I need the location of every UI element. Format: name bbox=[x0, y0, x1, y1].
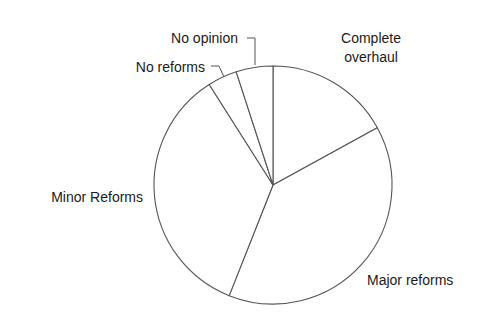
leader-line-no-reforms bbox=[211, 66, 224, 77]
leader-line-no-opinion bbox=[247, 38, 255, 65]
pie-slices bbox=[154, 66, 392, 304]
slice-label-no-reforms: No reforms bbox=[136, 59, 205, 75]
slice-label-minor-reforms: Minor Reforms bbox=[51, 189, 143, 205]
pie-chart: CompleteoverhaulMajor reformsMinor Refor… bbox=[0, 0, 498, 332]
pie-chart-canvas: CompleteoverhaulMajor reformsMinor Refor… bbox=[0, 0, 498, 332]
slice-label-complete-overhaul: Completeoverhaul bbox=[341, 30, 401, 65]
slice-label-major-reforms: Major reforms bbox=[367, 272, 453, 288]
slice-label-no-opinion: No opinion bbox=[171, 30, 238, 46]
